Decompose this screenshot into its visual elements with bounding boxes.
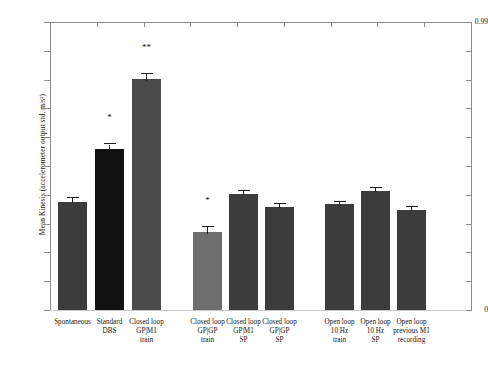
bar[interactable]: [397, 210, 426, 310]
bar[interactable]: [229, 194, 258, 310]
error-bar-cap: [202, 226, 214, 227]
error-bar-cap: [334, 201, 346, 202]
bar-group[interactable]: [265, 147, 294, 310]
x-tick-label-line: Closed loop: [250, 318, 310, 327]
bar[interactable]: [265, 207, 294, 310]
x-tick-label-line: SP: [250, 336, 310, 345]
bar-group[interactable]: *: [193, 172, 222, 310]
bar[interactable]: [132, 79, 161, 310]
bar-group[interactable]: [397, 150, 426, 310]
x-tick-label: Open loopprevious M1recording: [382, 318, 442, 346]
bar-group[interactable]: **: [132, 19, 161, 310]
x-tick-label-line: previous M1: [382, 327, 442, 336]
bar[interactable]: [193, 232, 222, 310]
x-tick-label-line: recording: [382, 336, 442, 345]
error-bar-cap: [406, 206, 418, 207]
error-bar-cap: [370, 187, 382, 188]
bar[interactable]: [58, 202, 87, 310]
error-bar-stem: [146, 74, 147, 81]
x-tick-label: Closed loopGP|M1train: [117, 318, 177, 346]
bar[interactable]: [361, 191, 390, 310]
error-bar-stem: [243, 191, 244, 195]
significance-marker: *: [193, 196, 222, 205]
bar[interactable]: [95, 149, 124, 310]
x-tick-label-line: Open loop: [382, 318, 442, 327]
error-bar-stem: [279, 204, 280, 208]
significance-marker: **: [132, 43, 161, 52]
error-bar-stem: [375, 188, 376, 192]
bar[interactable]: [325, 204, 354, 310]
error-bar-cap: [141, 73, 153, 74]
x-tick-label-line: GP|M1: [117, 327, 177, 336]
significance-marker: *: [95, 113, 124, 122]
error-bar-stem: [207, 227, 208, 233]
error-bar-stem: [72, 198, 73, 203]
error-bar-stem: [109, 145, 110, 150]
x-tick-label-line: train: [117, 336, 177, 345]
error-bar-stem: [339, 202, 340, 206]
error-bar-cap: [67, 197, 79, 198]
x-tick-label: Closed loopGP|GPSP: [250, 318, 310, 346]
bar-group[interactable]: [229, 134, 258, 310]
bar-group[interactable]: [361, 131, 390, 310]
bar-group[interactable]: *: [95, 89, 124, 310]
error-bar-cap: [274, 203, 286, 204]
error-bar-cap: [238, 190, 250, 191]
bar-group[interactable]: [58, 142, 87, 310]
x-tick-label-line: Closed loop: [117, 318, 177, 327]
bar-chart-figure: Mean Kinesis (accelerometer output std, …: [0, 0, 488, 380]
bar-group[interactable]: [325, 144, 354, 310]
error-bar-cap: [104, 143, 116, 144]
error-bar-stem: [411, 207, 412, 211]
x-tick-label-line: GP|GP: [250, 327, 310, 336]
